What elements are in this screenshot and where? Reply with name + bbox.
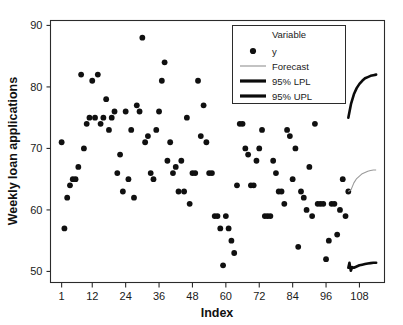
x-tick-label: 96	[320, 290, 332, 302]
legend[interactable]: Variable y Forecast 95% LPL 95% UPL	[233, 26, 346, 104]
data-point	[78, 72, 84, 78]
data-point	[215, 213, 221, 219]
data-point	[181, 189, 187, 195]
data-point	[173, 164, 179, 170]
x-tick-label: 24	[120, 290, 132, 302]
data-point	[187, 201, 193, 207]
x-tick-label: 84	[287, 290, 299, 302]
data-point	[148, 170, 154, 176]
data-point	[298, 189, 304, 195]
data-point	[178, 158, 184, 164]
data-point	[126, 176, 132, 182]
data-point	[106, 127, 112, 133]
data-point	[293, 146, 299, 152]
data-point	[326, 238, 332, 244]
data-point	[254, 158, 260, 164]
data-point	[184, 115, 190, 121]
data-point	[162, 59, 168, 65]
data-point	[284, 127, 290, 133]
data-point	[81, 146, 87, 152]
data-point	[165, 158, 171, 164]
x-tick-label: 1	[59, 290, 65, 302]
x-tick-label: 12	[86, 290, 98, 302]
data-point	[123, 109, 129, 115]
data-point	[312, 121, 318, 127]
data-point	[306, 164, 312, 170]
data-point	[62, 225, 68, 231]
data-point	[295, 244, 301, 250]
data-point	[290, 176, 296, 182]
data-point	[73, 176, 79, 182]
data-point	[209, 170, 215, 176]
legend-label-y[interactable]: y	[272, 46, 277, 57]
x-tick-label: 36	[153, 290, 165, 302]
data-point	[75, 164, 81, 170]
legend-label-forecast[interactable]: Forecast	[272, 61, 309, 72]
data-point	[95, 72, 101, 78]
x-tick-label: 72	[253, 290, 265, 302]
data-point	[234, 182, 240, 188]
data-point	[301, 195, 307, 201]
x-tick-label: 48	[186, 290, 198, 302]
y-tick-label: 50	[30, 265, 42, 277]
data-point	[167, 139, 173, 145]
data-point	[131, 195, 137, 201]
data-point	[279, 189, 285, 195]
data-point	[67, 182, 73, 188]
data-point	[309, 213, 315, 219]
data-point	[343, 213, 349, 219]
legend-label-upl[interactable]: 95% UPL	[272, 91, 312, 102]
data-point	[151, 176, 157, 182]
y-tick-label: 60	[30, 204, 42, 216]
legend-label-lpl[interactable]: 95% LPL	[272, 76, 311, 87]
data-point	[170, 170, 176, 176]
data-point	[98, 121, 104, 127]
data-point	[226, 225, 232, 231]
data-point	[334, 232, 340, 238]
data-point	[273, 170, 279, 176]
data-point	[134, 102, 140, 108]
x-axis-title: Index	[201, 306, 234, 320]
data-point	[137, 109, 143, 115]
data-point	[332, 201, 338, 207]
data-point	[217, 225, 223, 231]
y-tick-label: 80	[30, 81, 42, 93]
data-point	[109, 115, 115, 121]
data-point	[337, 207, 343, 213]
y-axis-title: Weekly loan applications	[6, 77, 20, 225]
data-point	[201, 102, 207, 108]
data-point	[345, 189, 351, 195]
data-point	[320, 201, 326, 207]
data-point	[245, 152, 251, 158]
data-point	[117, 152, 123, 158]
data-point	[120, 189, 126, 195]
data-point	[64, 195, 70, 201]
x-tick-label: 108	[350, 290, 368, 302]
data-point	[256, 146, 262, 152]
data-point	[229, 238, 235, 244]
data-point	[203, 139, 209, 145]
data-point	[84, 121, 90, 127]
data-point	[323, 256, 329, 262]
data-point	[192, 170, 198, 176]
x-tick-label: 60	[220, 290, 232, 302]
data-point	[220, 262, 226, 268]
data-point	[159, 78, 165, 84]
data-point	[87, 115, 93, 121]
data-point	[267, 213, 273, 219]
data-point	[251, 182, 257, 188]
data-point	[259, 127, 265, 133]
data-point	[89, 78, 95, 84]
data-point	[304, 207, 310, 213]
data-point	[156, 109, 162, 115]
data-point	[223, 213, 229, 219]
data-point	[240, 121, 246, 127]
scatter-plot-svg: 5060708090 11224364860728496108 Index We…	[0, 0, 403, 325]
y-tick-label: 70	[30, 142, 42, 154]
data-point	[176, 189, 182, 195]
legend-title: Variable	[272, 29, 306, 40]
data-point	[103, 96, 109, 102]
data-point	[112, 109, 118, 115]
data-point	[92, 115, 98, 121]
data-point	[100, 115, 106, 121]
